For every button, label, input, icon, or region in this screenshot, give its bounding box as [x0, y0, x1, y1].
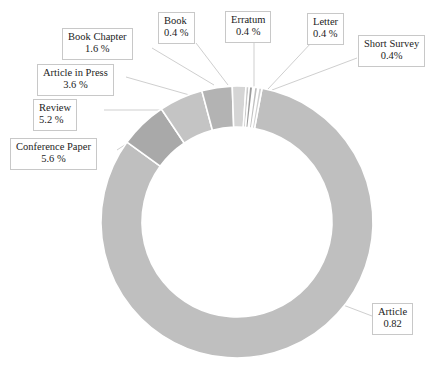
leader-line-short-survey: [272, 58, 357, 90]
callout-book: Book 0.4 %: [158, 12, 195, 44]
callout-short-survey: Short Survey 0.4%: [358, 35, 425, 67]
callout-label-article-in-press: Article in Press: [43, 67, 108, 79]
leader-line-letter: [268, 42, 312, 89]
callout-review: Review 5.2 %: [33, 99, 77, 131]
callout-label-review: Review: [39, 102, 71, 114]
callout-erratum: Erratum 0.4 %: [225, 11, 271, 43]
callout-value-article-in-press: 3.6 %: [43, 79, 108, 91]
leader-line-article-in-press: [126, 77, 193, 96]
callout-label-short-survey: Short Survey: [364, 38, 419, 50]
leader-line-book: [196, 43, 228, 85]
callout-label-letter: Letter: [313, 16, 338, 28]
callout-label-book: Book: [164, 15, 189, 27]
callout-value-short-survey: 0.4%: [364, 50, 419, 62]
callout-value-letter: 0.4 %: [313, 28, 338, 40]
callout-value-book: 0.4 %: [164, 27, 189, 39]
callout-value-book-chapter: 1.6 %: [68, 43, 127, 55]
callout-conference-paper: Conference Paper 5.6 %: [10, 138, 97, 170]
callout-label-conference-paper: Conference Paper: [16, 141, 91, 153]
callout-value-erratum: 0.4 %: [231, 26, 265, 38]
callout-letter: Letter 0.4 %: [307, 13, 344, 45]
callout-book-chapter: Book Chapter 1.6 %: [62, 28, 133, 60]
callout-label-book-chapter: Book Chapter: [68, 31, 127, 43]
donut-slices: [101, 86, 373, 358]
callout-article: Article 0.82: [372, 303, 413, 335]
donut-chart: Book Chapter 1.6 % Book 0.4 % Erratum 0.…: [0, 0, 443, 371]
callout-label-erratum: Erratum: [231, 14, 265, 26]
leader-line-book-chapter: [152, 48, 214, 85]
callout-article-in-press: Article in Press 3.6 %: [37, 64, 114, 96]
callout-label-article: Article: [378, 306, 407, 318]
callout-value-conference-paper: 5.6 %: [16, 153, 91, 165]
callout-value-article: 0.82: [378, 318, 407, 330]
callout-value-review: 5.2 %: [39, 114, 71, 126]
